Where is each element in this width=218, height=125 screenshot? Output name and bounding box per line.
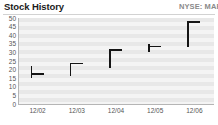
widget-header: Stock History NYSE: MAR [0, 0, 218, 15]
ticker-symbol-label: NYSE: MAR [179, 2, 218, 11]
y-tick-label: 20 [9, 66, 16, 73]
y-axis-labels: 50454035302520151050 [0, 14, 17, 109]
ohlc-range-bar [70, 63, 72, 77]
x-tick-label: 12/02 [29, 107, 45, 114]
y-tick-label: 45 [9, 23, 16, 30]
x-axis-line [18, 104, 214, 105]
header-divider [3, 14, 215, 15]
y-tick-label: 35 [9, 40, 16, 47]
x-tick-label: 12/03 [69, 107, 85, 114]
y-tick-label: 25 [9, 58, 16, 65]
x-tick-label: 12/06 [186, 107, 202, 114]
y-tick-label: 15 [9, 75, 16, 82]
y-tick-label: 40 [9, 32, 16, 39]
y-tick-label: 5 [12, 92, 16, 99]
x-tick-label: 12/05 [147, 107, 163, 114]
y-tick-label: 0 [12, 101, 16, 108]
stock-history-widget: Stock History NYSE: MAR 5045403530252015… [0, 0, 218, 125]
x-tick-label: 12/04 [108, 107, 124, 114]
x-axis-labels: 12/0212/0312/0412/0512/06 [18, 107, 214, 119]
ohlc-close-tick [187, 21, 200, 23]
ohlc-close-tick [70, 63, 83, 65]
ohlc-range-bar [109, 49, 111, 68]
y-tick-label: 50 [9, 15, 16, 22]
ohlc-close-tick [148, 46, 161, 48]
ohlc-range-bar [187, 21, 189, 47]
page-title: Stock History [4, 1, 64, 12]
chart-plot-area [18, 18, 214, 104]
y-tick-label: 10 [9, 83, 16, 90]
y-axis-line [18, 18, 19, 105]
y-tick-label: 30 [9, 49, 16, 56]
ohlc-close-tick [109, 49, 122, 51]
ohlc-close-tick [31, 73, 44, 75]
